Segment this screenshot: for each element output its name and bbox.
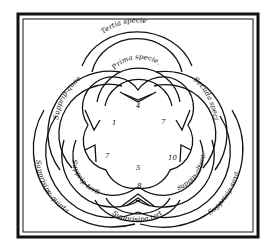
label-lower-left-outer: Supprisipe-quinta. [34, 159, 72, 216]
label-lower-left-inner: Supprip-tertia. [0, 0, 101, 197]
number-right: 10 [168, 154, 177, 162]
label-lower-right-outer: Supprisip-sexa. [206, 169, 240, 217]
number-upper-left: 1 [112, 119, 116, 127]
circle-arcs [33, 32, 243, 227]
number-bottom: 8 [137, 182, 142, 190]
label-prima-specie: Prima specie. [110, 53, 162, 72]
label-secunda-specie: Secūda specie. [0, 0, 220, 121]
number-upper-right: 7 [161, 118, 166, 126]
diagram-canvas: Tertia specie Prima specie. Supprip-quae… [0, 0, 272, 250]
number-left: 7 [105, 152, 110, 160]
number-bottom-center: 5 [136, 164, 141, 172]
number-top: 4 [135, 102, 140, 110]
